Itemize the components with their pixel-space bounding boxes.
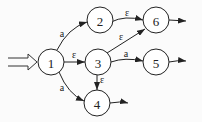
exit-arrow-5 bbox=[169, 61, 186, 62]
edge-label: ε bbox=[100, 74, 104, 85]
svg-text:5: 5 bbox=[153, 56, 160, 71]
svg-text:4: 4 bbox=[94, 97, 101, 112]
exit-arrow-6 bbox=[169, 20, 186, 21]
edge-1-3: ε bbox=[64, 49, 85, 62]
edge-label: ε bbox=[125, 7, 129, 18]
svg-text:1: 1 bbox=[48, 56, 55, 71]
state-3: 3 bbox=[85, 49, 111, 75]
state-5: 5 bbox=[143, 49, 169, 75]
automaton-diagram: a ε a ε ε a ε 1 2 3 4 5 6 bbox=[0, 0, 202, 122]
edge-3-5: a bbox=[111, 48, 143, 62]
edge-1-2: a bbox=[57, 22, 87, 50]
edge-3-4: ε bbox=[97, 74, 104, 90]
edge-label: a bbox=[60, 82, 65, 93]
edge-label: a bbox=[124, 48, 129, 59]
edge-label: ε bbox=[119, 31, 123, 42]
svg-text:3: 3 bbox=[95, 56, 102, 71]
state-6: 6 bbox=[143, 7, 169, 33]
exit-arrow-4 bbox=[110, 102, 128, 103]
start-arrow bbox=[8, 54, 37, 70]
svg-text:6: 6 bbox=[153, 14, 160, 29]
edge-2-6: ε bbox=[111, 7, 143, 22]
state-2: 2 bbox=[87, 7, 113, 33]
svg-text:2: 2 bbox=[97, 14, 104, 29]
state-4: 4 bbox=[84, 90, 110, 116]
edge-label: a bbox=[60, 28, 65, 39]
edge-label: ε bbox=[72, 49, 76, 60]
edge-1-4: a bbox=[59, 72, 84, 101]
state-1: 1 bbox=[38, 49, 64, 75]
